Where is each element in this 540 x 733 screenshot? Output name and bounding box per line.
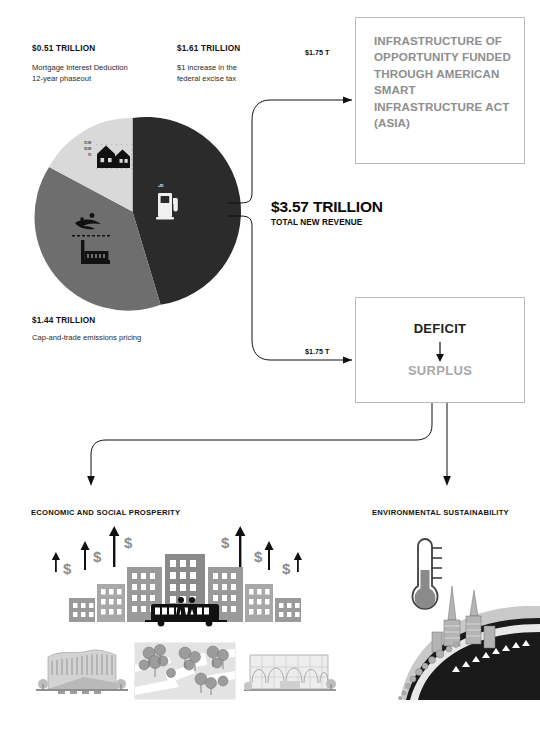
environmental-illustration [392,532,540,700]
infographic-canvas: $0.51 TRILLION Mortgage Interest Deducti… [0,0,540,733]
down-arrow-icon [435,342,446,362]
heading-environmental-sustainability: ENVIRONMENTAL SUSTAINABILITY [372,508,509,517]
flow-label-infrastructure: $1.75 T [305,48,329,57]
thermometer-icon [413,539,443,609]
city-prosperity-illustration: $ $ $ $ $ $ [35,534,335,644]
deficit-label: DEFICIT [356,321,524,336]
total-amount: $3.57 TRILLION [271,199,383,215]
total-new-revenue: $3.57 TRILLION TOTAL NEW REVENUE [271,199,383,227]
panel-civic-building [36,643,128,699]
total-subtitle: TOTAL NEW REVENUE [271,218,383,227]
svg-text:$: $ [221,534,230,551]
svg-text:$: $ [93,548,102,565]
deficit-surplus-box[interactable]: DEFICIT SURPLUS [355,297,525,403]
infrastructure-box-text: INFRASTRUCTURE OF OPPORTUNITY FUNDED THR… [374,33,516,132]
infrastructure-box[interactable]: INFRASTRUCTURE OF OPPORTUNITY FUNDED THR… [355,17,525,164]
tram-icon [145,604,227,626]
heading-economic-prosperity: ECONOMIC AND SOCIAL PROSPERITY [31,508,180,517]
svg-text:$: $ [282,560,291,577]
panel-market-hall [244,643,336,699]
svg-text:$: $ [63,560,72,577]
svg-text:$: $ [254,548,263,565]
panel-park-plan [135,643,235,699]
flow-label-deficit: $1.75 T [305,347,329,356]
svg-text:$: $ [124,534,133,551]
surplus-label: SURPLUS [356,363,524,378]
